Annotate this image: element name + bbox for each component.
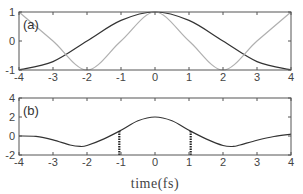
x-tick-label: -1 [116, 71, 126, 83]
x-axis-label: time(fs) [131, 176, 179, 192]
y-tick-label: 4 [9, 92, 15, 104]
x-tick-label: -2 [82, 71, 92, 83]
series-line-0 [19, 12, 291, 70]
series-line-1 [19, 12, 291, 70]
x-tick-label: 2 [220, 156, 226, 168]
y-tick-label: 2 [9, 111, 15, 123]
x-tick-label: 1 [186, 71, 192, 83]
x-tick-label: 0 [152, 71, 158, 83]
panel-label: (b) [23, 103, 39, 118]
x-tick-label: -4 [14, 156, 24, 168]
panel-b: -4-3-2-101234-2024(b) [5, 92, 294, 168]
axes-frame [19, 98, 291, 155]
x-tick-label: -3 [48, 71, 58, 83]
x-tick-label: -4 [14, 71, 24, 83]
x-tick-label: 3 [254, 71, 260, 83]
x-tick-label: 3 [254, 156, 260, 168]
axes-frame [19, 12, 291, 70]
figure: -4-3-2-101234-101(a) -4-3-2-101234-2024(… [0, 0, 303, 194]
x-tick-label: 4 [288, 156, 294, 168]
y-tick-label: -2 [5, 149, 15, 161]
x-tick-label: -1 [116, 156, 126, 168]
x-tick-label: 4 [288, 71, 294, 83]
x-tick-label: 0 [152, 156, 158, 168]
x-tick-label: 1 [186, 156, 192, 168]
series-line-0 [19, 117, 291, 147]
panel-a: -4-3-2-101234-101(a) [5, 6, 294, 83]
x-tick-label: 2 [220, 71, 226, 83]
y-tick-label: 1 [9, 6, 15, 18]
x-tick-label: -3 [48, 156, 58, 168]
x-tick-label: -2 [82, 156, 92, 168]
y-tick-label: 0 [9, 35, 15, 47]
y-tick-label: 0 [9, 130, 15, 142]
y-tick-label: -1 [5, 64, 15, 76]
panel-label: (a) [23, 17, 39, 32]
